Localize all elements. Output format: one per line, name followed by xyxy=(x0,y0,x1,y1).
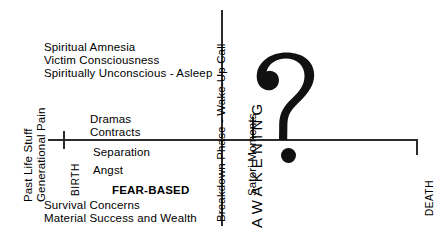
label-death: DEATH xyxy=(424,180,435,216)
label-generational-pain: Generational Pain xyxy=(35,107,47,202)
death-tick-mark xyxy=(416,139,418,155)
label-separation: Separation xyxy=(93,146,150,159)
label-breakdown-phase: Breakdown Phase - Wake-Up Call xyxy=(215,43,227,222)
label-birth: BIRTH xyxy=(70,163,81,196)
upper-left-text-block: Spiritual Amnesia Victim Consciousness S… xyxy=(44,41,212,80)
label-survival-concerns: Survival Concerns xyxy=(44,199,140,212)
label-victim-consciousness: Victim Consciousness xyxy=(44,54,212,67)
birth-tick-mark xyxy=(63,131,65,149)
diagram-canvas: Spiritual Amnesia Victim Consciousness S… xyxy=(0,0,441,237)
label-dramas: Dramas xyxy=(90,113,131,126)
label-fear-based: FEAR-BASED xyxy=(112,184,189,197)
label-spiritual-amnesia: Spiritual Amnesia xyxy=(44,41,212,54)
label-spiritually-unconscious: Spiritually Unconscious - Asleep xyxy=(44,67,212,80)
question-mark-dot-icon xyxy=(281,148,296,163)
label-material-success: Material Success and Wealth xyxy=(44,212,197,225)
label-contracts: Contracts xyxy=(90,126,141,139)
question-mark-icon xyxy=(256,52,318,148)
label-past-life-stuff: Past Life Stuff xyxy=(22,128,34,202)
horizontal-axis-line xyxy=(48,139,418,141)
label-angst: Angst xyxy=(93,164,123,177)
